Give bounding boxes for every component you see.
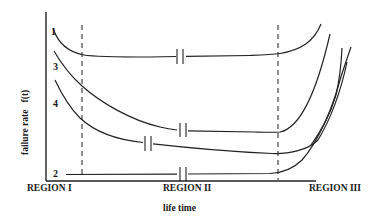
curve-label-3: 3: [53, 61, 58, 72]
curve-label-4: 4: [53, 98, 58, 109]
curve-label-2: 2: [53, 168, 58, 179]
y-axis-label: failure rate f(t): [20, 90, 31, 155]
curve-1: [53, 24, 321, 57]
curve-3: [54, 34, 330, 132]
bathtub-curve-diagram: 1 3 4 2 failure rate f(t) REGION I REGIO…: [0, 0, 380, 220]
curve-2: [66, 47, 351, 175]
region-label-2: REGION II: [163, 183, 212, 193]
region-label-1: REGION I: [27, 183, 72, 193]
region-label-3: REGION III: [309, 183, 361, 193]
break-marks: [145, 49, 186, 181]
curve-label-1: 1: [51, 26, 56, 37]
x-axis-label: life time: [163, 203, 196, 213]
curve-4: [55, 62, 347, 154]
